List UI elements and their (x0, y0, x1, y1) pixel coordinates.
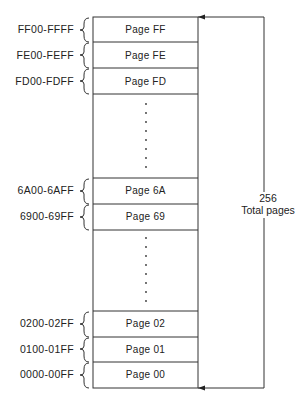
address-range-ff: FF00-FFFF (4, 23, 74, 35)
span-line-top (198, 17, 264, 194)
ellipsis-dots-lower (145, 237, 147, 302)
address-range-69: 6900-69FF (4, 210, 74, 222)
page-cell-00: Page 00 (93, 369, 198, 380)
page-cell-ff: Page FF (93, 24, 198, 35)
total-pages-text: Total pages (240, 204, 296, 216)
address-range-01: 0100-01FF (4, 343, 74, 355)
page-cell-01: Page 01 (93, 344, 198, 355)
page-cell-fe: Page FE (93, 50, 198, 61)
ellipsis-dots-upper (145, 103, 147, 168)
address-range-fe: FE00-FEFF (4, 49, 74, 61)
total-pages-count: 256 (240, 192, 296, 204)
page-cell-69: Page 69 (93, 211, 198, 222)
address-range-fd: FD00-FDFF (4, 75, 74, 87)
arrow-left-icon-top (198, 15, 205, 20)
brace-icons (80, 18, 89, 388)
address-range-02: 0200-02FF (4, 317, 74, 329)
memory-column (93, 17, 198, 388)
address-range-00: 0000-00FF (4, 368, 74, 380)
total-pages-label: 256 Total pages (240, 192, 296, 216)
address-range-6a: 6A00-6AFF (4, 184, 74, 196)
span-line-bottom (198, 218, 264, 388)
page-cell-6a: Page 6A (93, 185, 198, 196)
page-cell-02: Page 02 (93, 318, 198, 329)
arrow-left-icon-bottom (198, 386, 205, 391)
page-cell-fd: Page FD (93, 76, 198, 87)
